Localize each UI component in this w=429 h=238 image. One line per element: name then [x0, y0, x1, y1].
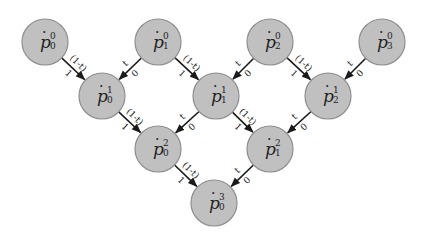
edge-index-label: 0	[186, 121, 197, 132]
node-p1_1: p·11	[193, 73, 239, 119]
node-subscript: 0	[107, 95, 113, 105]
node-superscript: 0	[163, 31, 169, 41]
edge-index-label: 1	[289, 68, 300, 79]
node-subscript: 2	[333, 95, 339, 105]
edge-p3_0-to-p2_1: t0	[345, 58, 366, 79]
node-subscript: 1	[275, 148, 281, 158]
edge-p1_2-to-p0_3: t0	[231, 165, 253, 186]
node-superscript: 0	[50, 31, 56, 41]
edge-index-label: 0	[241, 175, 252, 186]
node-p1_2: p·21	[247, 126, 293, 172]
nodes-layer: p·00p·01p·02p·03p·10p·11p·12p·20p·21p·30	[22, 19, 405, 226]
node-subscript: 1	[221, 95, 227, 105]
node-dot: ·	[213, 78, 217, 94]
node-dot: ·	[155, 131, 159, 147]
edge-index-label: 0	[129, 68, 140, 79]
edge-p0_1-to-p0_2: (1-t)1	[119, 106, 146, 132]
edge-p0_0-to-p0_1: (1-t)1	[62, 53, 89, 80]
node-p2_1: p·12	[305, 73, 351, 119]
edge-index-label: 1	[176, 175, 187, 186]
edge-weight-label: t	[345, 58, 355, 68]
edge-p0_2-to-p0_3: (1-t)1	[175, 160, 202, 186]
node-p0_2: p·20	[135, 126, 181, 172]
node-subscript: 3	[387, 41, 393, 51]
edge-p1_1-to-p0_2: t0	[176, 111, 199, 132]
node-subscript: 0	[50, 41, 56, 51]
node-dot: ·	[155, 24, 159, 40]
node-superscript: 0	[387, 31, 393, 41]
node-superscript: 2	[163, 138, 169, 148]
edge-index-label: 0	[298, 121, 309, 132]
edge-index-label: 1	[120, 121, 131, 132]
edge-weight-label: t	[120, 58, 130, 68]
node-superscript: 3	[219, 192, 225, 202]
node-subscript: 1	[163, 41, 169, 51]
node-subscript: 0	[219, 202, 225, 212]
node-p0_3: p·30	[191, 180, 237, 226]
edge-p2_0-to-p1_1: t0	[233, 58, 254, 79]
node-p0_1: p·10	[79, 73, 125, 119]
node-p1_0: p·01	[135, 19, 181, 65]
node-p0_0: p·00	[22, 19, 68, 65]
node-p3_0: p·03	[359, 19, 405, 65]
node-dot: ·	[325, 78, 329, 94]
node-superscript: 1	[333, 85, 339, 95]
node-superscript: 1	[221, 85, 227, 95]
node-superscript: 2	[275, 138, 281, 148]
edge-weight-label: t	[290, 111, 300, 121]
node-dot: ·	[211, 185, 215, 201]
edge-weight-label: t	[233, 58, 243, 68]
node-superscript: 0	[275, 31, 281, 41]
node-dot: ·	[42, 24, 46, 40]
edge-weight-label: t	[232, 165, 242, 175]
edge-index-label: 1	[233, 121, 244, 132]
edge-weight-label: t	[178, 111, 188, 121]
edge-p1_0-to-p1_1: (1-t)1	[175, 53, 202, 80]
edge-p1_0-to-p0_1: t0	[119, 58, 141, 79]
edge-index-label: 1	[177, 68, 188, 79]
edge-p2_0-to-p2_1: (1-t)1	[287, 53, 314, 80]
node-superscript: 1	[107, 85, 113, 95]
node-dot: ·	[379, 24, 383, 40]
node-subscript: 0	[163, 148, 169, 158]
edge-p2_1-to-p1_2: t0	[288, 111, 311, 132]
node-p2_0: p·02	[247, 19, 293, 65]
edge-p1_1-to-p1_2: (1-t)1	[232, 106, 258, 132]
bernstein-triangle-diagram: (1-t)1t0(1-t)1t0(1-t)1t0(1-t)1t0(1-t)1t0…	[0, 0, 429, 238]
edge-index-label: 0	[242, 67, 253, 78]
node-subscript: 2	[275, 41, 281, 51]
node-dot: ·	[267, 24, 271, 40]
node-dot: ·	[267, 131, 271, 147]
edge-index-label: 1	[63, 68, 74, 79]
node-dot: ·	[99, 78, 103, 94]
edge-index-label: 0	[354, 67, 365, 78]
